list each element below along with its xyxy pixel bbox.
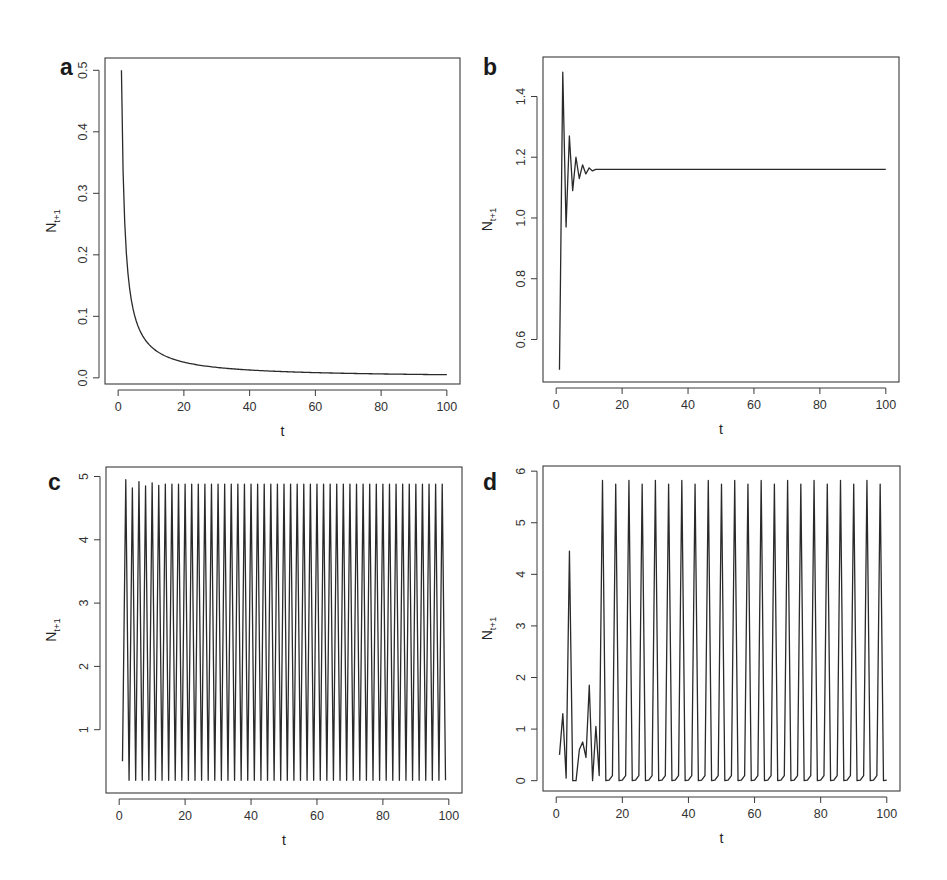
panel-letter-c: c — [48, 469, 61, 495]
y-axis-title: Nt+1 — [479, 617, 498, 641]
y-tick-label: 1 — [514, 726, 528, 733]
x-tick-label: 0 — [115, 400, 122, 414]
x-tick-label: 100 — [875, 398, 896, 412]
x-tick-label: 80 — [814, 807, 828, 821]
y-tick-label: 1.4 — [514, 88, 528, 105]
panel-letter-b: b — [483, 54, 497, 80]
data-line — [122, 480, 445, 781]
y-tick-label: 3 — [514, 622, 528, 629]
y-tick-label: 2 — [514, 674, 528, 681]
y-tick-label: 1.0 — [514, 209, 528, 226]
x-tick-label: 0 — [553, 398, 560, 412]
y-axis: 0.60.81.01.21.4Nt+1 — [479, 88, 537, 348]
panel-d: d020406080100t0123456Nt+1 — [479, 466, 900, 846]
data-line — [560, 480, 887, 780]
y-axis-title: Nt+1 — [43, 209, 62, 233]
y-tick-label: 0.2 — [76, 246, 90, 263]
y-axis-title: Nt+1 — [43, 618, 62, 642]
panel-a: a020406080100t0.00.10.20.30.40.5Nt+1 — [43, 54, 460, 439]
y-tick-label: 1 — [77, 726, 91, 733]
y-tick-label: 0.5 — [76, 62, 90, 79]
x-axis-title: t — [719, 421, 723, 437]
y-axis-title: Nt+1 — [479, 208, 498, 232]
figure-canvas: a020406080100t0.00.10.20.30.40.5Nt+1b020… — [0, 0, 947, 880]
y-tick-label: 5 — [514, 519, 528, 526]
y-axis: 0.00.10.20.30.40.5Nt+1 — [43, 62, 99, 387]
x-axis: 020406080100t — [115, 390, 458, 439]
y-tick-label: 4 — [514, 571, 528, 578]
x-tick-label: 100 — [876, 807, 897, 821]
y-tick-label: 0.1 — [76, 308, 90, 325]
plot-frame — [543, 57, 899, 382]
y-tick-label: 0.6 — [514, 331, 528, 348]
y-tick-label: 3 — [77, 600, 91, 607]
x-tick-label: 40 — [681, 398, 695, 412]
y-tick-label: 2 — [77, 663, 91, 670]
x-tick-label: 0 — [116, 809, 123, 823]
x-tick-label: 60 — [747, 398, 761, 412]
data-line — [121, 70, 446, 374]
x-axis: 020406080100t — [553, 797, 898, 846]
panel-letter-d: d — [483, 469, 497, 495]
x-tick-label: 40 — [681, 807, 695, 821]
x-tick-label: 40 — [243, 400, 257, 414]
y-tick-label: 6 — [514, 468, 528, 475]
x-tick-label: 80 — [813, 398, 827, 412]
y-tick-label: 1.2 — [514, 149, 528, 166]
x-tick-label: 40 — [244, 809, 258, 823]
x-tick-label: 100 — [438, 809, 459, 823]
x-tick-label: 20 — [177, 400, 191, 414]
x-tick-label: 20 — [178, 809, 192, 823]
x-axis: 020406080100t — [116, 799, 460, 848]
x-axis-title: t — [281, 423, 285, 439]
x-tick-label: 100 — [436, 400, 457, 414]
x-tick-label: 80 — [376, 809, 390, 823]
y-axis: 12345Nt+1 — [43, 473, 100, 733]
panel-c: c020406080100t12345Nt+1 — [43, 467, 462, 848]
panel-b: b020406080100t0.60.81.01.21.4Nt+1 — [479, 54, 899, 437]
x-axis-title: t — [720, 830, 724, 846]
y-tick-label: 0.4 — [76, 123, 90, 140]
y-tick-label: 4 — [77, 536, 91, 543]
y-tick-label: 0.8 — [514, 270, 528, 287]
plot-frame — [105, 58, 460, 384]
x-tick-label: 60 — [310, 809, 324, 823]
figure: a020406080100t0.00.10.20.30.40.5Nt+1b020… — [0, 0, 947, 880]
y-axis: 0123456Nt+1 — [479, 468, 537, 785]
x-tick-label: 20 — [615, 807, 629, 821]
x-tick-label: 80 — [374, 400, 388, 414]
x-axis: 020406080100t — [553, 388, 897, 437]
x-axis-title: t — [282, 832, 286, 848]
y-tick-label: 0.0 — [76, 369, 90, 386]
panel-letter-a: a — [60, 54, 73, 80]
data-line — [559, 72, 885, 370]
x-tick-label: 0 — [553, 807, 560, 821]
y-tick-label: 0 — [514, 777, 528, 784]
y-tick-label: 0.3 — [76, 185, 90, 202]
x-tick-label: 20 — [615, 398, 629, 412]
y-tick-label: 5 — [77, 473, 91, 480]
x-tick-label: 60 — [748, 807, 762, 821]
x-tick-label: 60 — [308, 400, 322, 414]
